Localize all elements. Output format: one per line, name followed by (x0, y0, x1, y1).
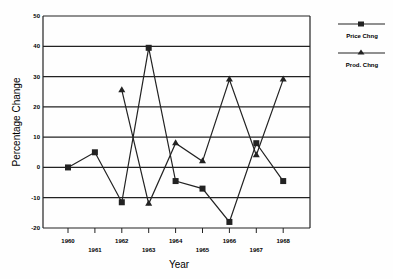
square-marker-icon (65, 164, 71, 170)
square-marker-icon (253, 140, 259, 146)
square-marker-icon (119, 199, 125, 205)
legend-label-price: Price Chng (346, 33, 378, 39)
y-tick-label: 30 (33, 74, 40, 80)
y-tick-label: 50 (33, 13, 40, 19)
triangle-marker-icon (172, 139, 179, 145)
gridlines (43, 16, 310, 228)
y-tick-label: 20 (33, 104, 40, 110)
x-tick-label: 1964 (169, 238, 183, 244)
x-axis-label: Year (169, 259, 190, 270)
x-tick-label: 1967 (250, 247, 264, 253)
square-marker-icon (146, 45, 152, 51)
series-line-0 (68, 48, 283, 222)
legend-label-prod: Prod. Chng (346, 62, 379, 68)
x-tick-label: 1962 (115, 238, 129, 244)
x-tick-label: 1963 (142, 247, 156, 253)
y-tick-label: 40 (33, 43, 40, 49)
x-tick-label: 1966 (223, 238, 237, 244)
square-marker-icon (200, 186, 206, 192)
triangle-marker-icon (145, 200, 152, 206)
square-marker-icon (226, 219, 232, 225)
y-tick-label: 10 (33, 134, 40, 140)
triangle-marker-icon (358, 50, 365, 55)
x-tick-label: 1968 (277, 238, 291, 244)
x-tick-label: 1965 (196, 247, 210, 253)
triangle-marker-icon (118, 86, 125, 92)
square-marker-icon (92, 149, 98, 155)
x-tick-label: 1961 (88, 247, 102, 253)
x-tick-label: 1960 (61, 238, 75, 244)
legend-item-prod: Prod. Chng (338, 50, 385, 69)
y-tick-label: 0 (37, 164, 41, 170)
y-tick-label: -10 (31, 195, 40, 201)
y-axis-label: Percentage Change (11, 77, 22, 166)
square-marker-icon (173, 178, 179, 184)
line-chart: 50403020100-10-20 1960196119621963196419… (0, 0, 393, 279)
y-axis-ticks: 50403020100-10-20 (31, 13, 40, 231)
square-marker-icon (280, 178, 286, 184)
square-marker-icon (358, 22, 364, 27)
y-tick-label: -20 (31, 225, 40, 231)
x-axis-ticks: 196019611962196319641965196619671968 (61, 228, 290, 253)
legend-item-price: Price Chng (338, 22, 385, 40)
legend: Price Chng Prod. Chng (338, 22, 385, 69)
